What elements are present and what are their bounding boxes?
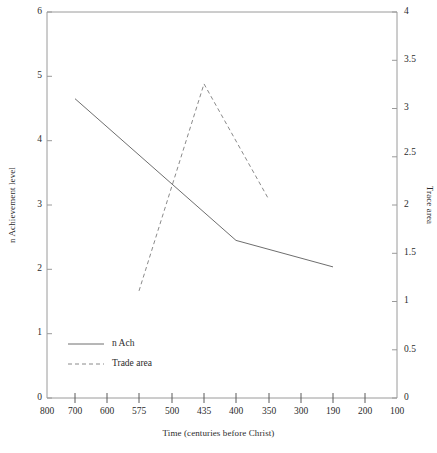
y-right-tick-4: 4: [404, 6, 434, 16]
y-axis-left-ticks: [47, 12, 52, 398]
y-left-tick-3: 3: [16, 199, 42, 209]
y-left-tick-0: 0: [16, 392, 42, 402]
y-right-tick-3: 3: [404, 102, 434, 112]
y-left-tick-4: 4: [16, 134, 42, 144]
y-right-tick-0-5: 0.5: [404, 344, 434, 354]
x-axis-title: Time (centuries before Christ): [0, 428, 437, 438]
y-right-tick-3-5: 3.5: [404, 54, 434, 64]
y-left-tick-2: 2: [16, 263, 42, 273]
y-right-tick-1: 1: [404, 295, 434, 305]
series-line-n-ach: [75, 99, 333, 267]
y-axis-right-title: Trace area: [425, 145, 435, 265]
plot-area-svg: [0, 0, 437, 453]
y-left-tick-5: 5: [16, 70, 42, 80]
y-left-tick-6: 6: [16, 6, 42, 16]
series-line-trade-area: [139, 84, 269, 291]
legend-label-trade-area: Trade area: [112, 358, 152, 368]
x-tick-100: 100: [377, 406, 417, 416]
legend-label-n-ach: n Ach: [112, 338, 134, 348]
y-right-tick-0: 0: [404, 392, 434, 402]
y-axis-right-ticks: [392, 12, 397, 398]
y-left-tick-1: 1: [16, 327, 42, 337]
y-axis-left-title: n Achievement level: [7, 145, 17, 265]
chart-container: 6 5 4 3 2 1 0 4 3.5 3 2.5 2 1.5 1 0.5 0 …: [0, 0, 437, 453]
